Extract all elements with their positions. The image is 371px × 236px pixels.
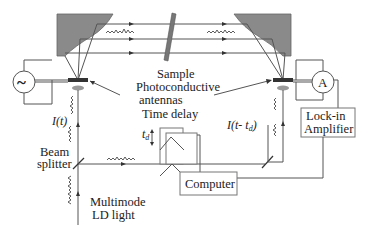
intensity-delayed-label: I(t- td) [226, 118, 257, 133]
detector-antenna [273, 78, 293, 91]
amplifier-label: Amplifier [304, 122, 354, 136]
sample-slab [164, 13, 176, 61]
svg-text:I(t- td): I(t- td) [226, 118, 257, 133]
ld-light-label: LD light [92, 208, 135, 222]
ac-source-symbol: ~ [17, 73, 26, 92]
delay-arrow-icon [150, 129, 154, 146]
lock-in-label: Lock-in [306, 109, 346, 123]
time-delay-label: Time delay [142, 107, 199, 121]
splitter-label: splitter [37, 157, 73, 171]
ammeter: A [293, 60, 338, 108]
emitter-antenna [68, 78, 88, 91]
diagram-canvas: ~ A Lock-in Amplifier Sample Photoconduc… [0, 0, 371, 236]
left-parabolic-mirror [57, 14, 113, 56]
td-symbol: td [142, 127, 150, 142]
svg-text:td: td [142, 127, 150, 142]
right-parabolic-mirror [234, 14, 291, 56]
time-delay-stage [160, 128, 200, 176]
ac-source: ~ [13, 60, 68, 104]
computer: Computer [180, 172, 237, 195]
multimode-label: Multimode [90, 195, 146, 209]
antennas-label: antennas [139, 93, 183, 107]
photoconductive-label: Photoconductive [136, 80, 220, 94]
computer-label: Computer [185, 177, 236, 191]
ammeter-symbol: A [318, 75, 328, 90]
sample-label: Sample [157, 67, 195, 81]
intensity-it-label: I(t) [51, 114, 67, 128]
